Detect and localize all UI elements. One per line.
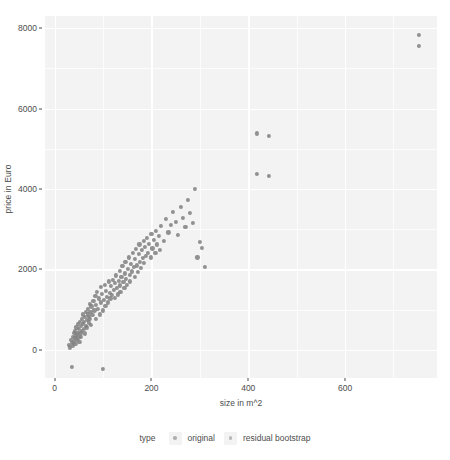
y-axis-tick-labels: 02000400060008000 (14, 0, 42, 378)
data-point (136, 270, 140, 274)
x-axis-tick-label: 400 (241, 383, 255, 393)
data-point (137, 242, 141, 246)
data-point (176, 233, 180, 237)
grid-line-minor-vertical (297, 16, 298, 378)
data-point (186, 198, 190, 202)
y-axis-tick-label: 4000 (18, 184, 37, 194)
data-point (191, 221, 195, 225)
grid-line-minor-vertical (393, 16, 394, 378)
data-point (158, 248, 162, 252)
data-point (149, 232, 153, 236)
data-point (198, 240, 202, 244)
data-point (120, 264, 124, 268)
y-axis-tick-mark (39, 269, 42, 270)
x-axis-tick-mark (248, 378, 249, 381)
data-point (117, 269, 121, 273)
y-axis-tick-label: 6000 (18, 104, 37, 114)
data-point (119, 275, 123, 279)
data-point (153, 251, 157, 255)
data-point (98, 312, 102, 316)
data-point (127, 255, 131, 259)
x-axis-tick-mark (345, 378, 346, 381)
data-point (94, 317, 98, 321)
y-axis-tick-mark (39, 188, 42, 189)
grid-line-major-vertical (345, 16, 346, 378)
data-point (164, 217, 168, 221)
data-point (169, 223, 173, 227)
data-point (79, 334, 83, 338)
grid-line-major-vertical (151, 16, 152, 378)
legend-item-residual-bootstrap[interactable]: residual bootstrap (224, 432, 311, 445)
data-point (77, 340, 81, 344)
data-point (188, 211, 192, 215)
data-point (101, 308, 105, 312)
data-point (106, 300, 110, 304)
data-point (159, 224, 163, 228)
data-point (152, 238, 156, 242)
grid-line-minor-horizontal (45, 149, 437, 150)
data-point (166, 230, 170, 234)
data-point (130, 269, 134, 273)
legend: type original residual bootstrap (0, 426, 450, 450)
x-axis-tick-label: 200 (144, 383, 158, 393)
legend-item-original[interactable]: original (169, 432, 215, 445)
grid-line-minor-vertical (103, 16, 104, 378)
data-point (83, 331, 87, 335)
data-point (114, 273, 118, 277)
data-point (157, 234, 161, 238)
data-point (70, 365, 74, 369)
data-point (123, 260, 127, 264)
data-point (122, 286, 126, 290)
grid-line-major-vertical (55, 16, 56, 378)
grid-line-major-horizontal (45, 189, 437, 190)
legend-label-residual-bootstrap: residual bootstrap (243, 433, 311, 443)
data-point (417, 44, 421, 48)
grid-line-major-horizontal (45, 350, 437, 351)
data-point (178, 205, 182, 209)
data-point (150, 246, 154, 250)
data-point (88, 317, 92, 321)
x-axis-tick-label: 0 (52, 383, 57, 393)
legend-key-residual-bootstrap (224, 432, 237, 445)
data-point (116, 279, 120, 283)
data-point (95, 289, 99, 293)
data-point (171, 210, 175, 214)
data-point (155, 242, 159, 246)
x-axis-tick-label: 600 (338, 383, 352, 393)
y-axis-tick-label: 2000 (18, 264, 37, 274)
data-point (142, 261, 146, 265)
point-icon (229, 436, 233, 440)
data-point (181, 216, 185, 220)
data-point (118, 289, 122, 293)
data-point (123, 271, 127, 275)
x-axis-tick-mark (151, 378, 152, 381)
data-point (103, 283, 107, 287)
data-point (255, 172, 259, 176)
data-point (132, 275, 136, 279)
y-axis-tick-mark (39, 28, 42, 29)
data-point (101, 367, 105, 371)
data-point (200, 246, 204, 250)
y-axis-tick-mark (39, 349, 42, 350)
data-point (133, 257, 137, 261)
y-axis-tick-label: 0 (32, 345, 37, 355)
grid-line-minor-horizontal (45, 229, 437, 230)
plot-panel (45, 16, 437, 378)
data-point (128, 279, 132, 283)
data-point (267, 174, 271, 178)
legend-label-original: original (188, 433, 215, 443)
scatter-chart: price in Euro 02000400060008000 02004006… (0, 0, 450, 460)
data-point (89, 323, 93, 327)
y-axis-tick-mark (39, 108, 42, 109)
x-axis-tick-mark (54, 378, 55, 381)
data-point (255, 131, 259, 135)
data-point (417, 33, 421, 37)
data-point (146, 250, 150, 254)
legend-title: type (139, 433, 155, 443)
legend-key-original (169, 432, 182, 445)
x-axis-title: size in m^2 (45, 398, 437, 408)
data-point (193, 187, 197, 191)
grid-line-major-horizontal (45, 109, 437, 110)
y-axis-title-label: price in Euro (3, 164, 13, 213)
point-icon (173, 436, 177, 440)
